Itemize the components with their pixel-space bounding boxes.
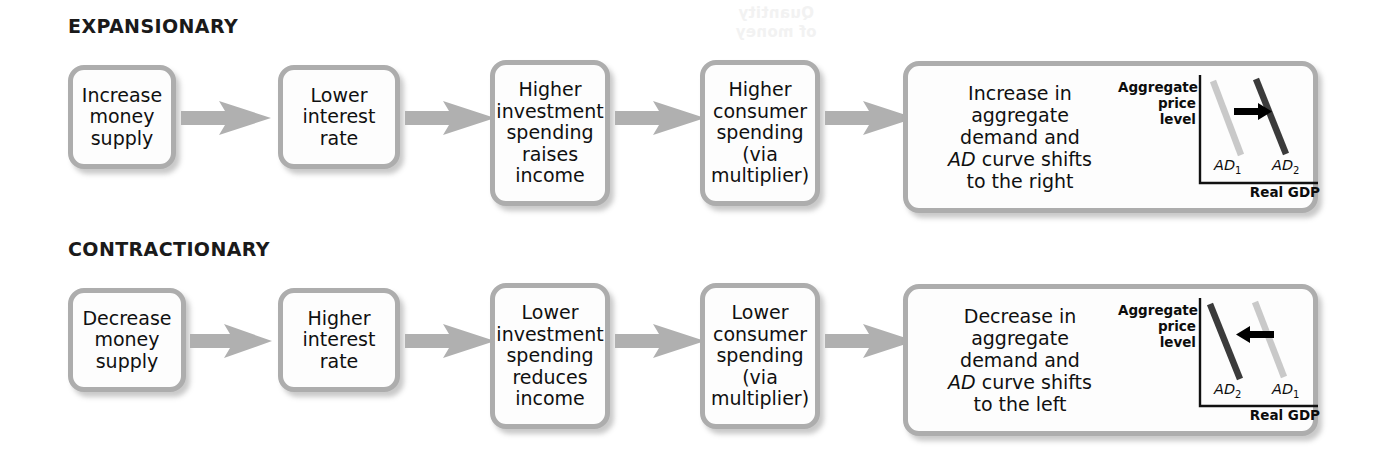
expansionary-step-4-label: Higher consumer spending (via multiplier… <box>707 79 813 186</box>
outcome-line-3: demand and <box>922 126 1118 148</box>
expansionary-chart-x-axis-label: Real GDP <box>1250 184 1320 200</box>
contractionary-step-1-box[interactable]: Decrease money supply <box>68 288 186 392</box>
expansionary-step-1-label: Increase money supply <box>78 85 166 149</box>
expansionary-chart-plot: AD1 AD2 Real GDP <box>1196 73 1320 201</box>
contractionary-curve-label-ad2: AD2 <box>1214 381 1241 400</box>
expansionary-step-4-box[interactable]: Higher consumer spending (via multiplier… <box>700 60 820 206</box>
expansionary-curve-label-ad1: AD1 <box>1214 157 1241 176</box>
outcome-line-3: demand and <box>922 349 1118 371</box>
contractionary-ad-chart: Aggregate price level AD2 AD1 Real GDP <box>1118 296 1320 424</box>
expansionary-arrow-3 <box>615 100 707 136</box>
contractionary-step-3-label: Lower investment spending reduces income <box>492 302 607 409</box>
contractionary-step-2-label: Higher interest rate <box>299 308 380 372</box>
outcome-line-4-italic: AD <box>948 148 976 170</box>
expansionary-arrow-1 <box>181 100 273 136</box>
ghost-line-2: of money <box>716 23 836 42</box>
contractionary-chart-x-axis-label: Real GDP <box>1250 407 1320 423</box>
page-bleed-through-text: Quantity of money <box>716 4 836 42</box>
expansionary-curve-label-ad2: AD2 <box>1272 157 1299 176</box>
contractionary-arrow-1 <box>190 323 274 359</box>
outcome-line-2: aggregate <box>922 104 1118 126</box>
expansionary-arrow-2 <box>405 100 497 136</box>
contractionary-step-4-box[interactable]: Lower consumer spending (via multiplier) <box>700 283 820 429</box>
contractionary-step-2-box[interactable]: Higher interest rate <box>278 288 400 392</box>
expansionary-outcome-label: Increase in aggregate demand and AD curv… <box>922 82 1118 192</box>
expansionary-flow: Increase money supply Lower interest rat… <box>0 62 1376 222</box>
expansionary-step-2-label: Lower interest rate <box>299 85 380 149</box>
outcome-line-2: aggregate <box>922 327 1118 349</box>
expansionary-ad-chart: Aggregate price level AD1 AD2 Real <box>1118 73 1320 201</box>
expansionary-step-2-box[interactable]: Lower interest rate <box>278 65 400 169</box>
outcome-line-5: to the left <box>922 393 1118 415</box>
contractionary-outcome-label: Decrease in aggregate demand and AD curv… <box>922 305 1118 415</box>
expansionary-title: EXPANSIONARY <box>68 15 238 37</box>
outcome-line-5: to the right <box>922 170 1118 192</box>
ghost-line-1: Quantity <box>716 4 836 23</box>
contractionary-step-1-label: Decrease money supply <box>78 308 175 372</box>
contractionary-title: CONTRACTIONARY <box>68 238 270 260</box>
expansionary-step-1-box[interactable]: Increase money supply <box>68 65 176 169</box>
expansionary-outcome-box[interactable]: Increase in aggregate demand and AD curv… <box>903 61 1318 213</box>
expansionary-step-3-box[interactable]: Higher investment spending raises income <box>490 60 610 206</box>
contractionary-step-3-box[interactable]: Lower investment spending reduces income <box>490 283 610 429</box>
contractionary-flow: Decrease money supply Higher interest ra… <box>0 285 1376 445</box>
outcome-line-4-rest: curve shifts <box>976 371 1092 393</box>
contractionary-chart-plot: AD2 AD1 Real GDP <box>1196 296 1320 424</box>
outcome-line-1: Decrease in <box>922 305 1118 327</box>
expansionary-step-3-label: Higher investment spending raises income <box>492 79 607 186</box>
expansionary-chart-y-axis-label: Aggregate price level <box>1118 73 1196 128</box>
contractionary-chart-y-axis-label: Aggregate price level <box>1118 296 1196 351</box>
contractionary-arrow-3 <box>615 323 707 359</box>
contractionary-step-4-label: Lower consumer spending (via multiplier) <box>707 302 813 409</box>
outcome-line-1: Increase in <box>922 82 1118 104</box>
contractionary-curve-label-ad1: AD1 <box>1272 381 1299 400</box>
contractionary-outcome-box[interactable]: Decrease in aggregate demand and AD curv… <box>903 284 1318 436</box>
outcome-line-4-rest: curve shifts <box>976 148 1092 170</box>
outcome-line-4-italic: AD <box>948 371 976 393</box>
contractionary-arrow-2 <box>405 323 497 359</box>
